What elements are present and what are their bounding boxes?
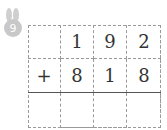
answer-cell[interactable] — [28, 93, 61, 128]
grid-cell: 1 — [61, 25, 94, 59]
grid-cell: 2 — [128, 25, 161, 59]
answer-cell[interactable] — [128, 93, 161, 128]
grid-cell: 8 — [61, 59, 94, 93]
grid-cell: 8 — [128, 59, 161, 93]
rabbit-badge-icon: 9 — [2, 8, 24, 38]
grid-cell — [28, 25, 61, 59]
grid-cell: 1 — [94, 59, 127, 93]
answer-cell[interactable] — [61, 93, 94, 128]
svg-text:9: 9 — [10, 22, 17, 35]
plus-sign: + — [28, 59, 61, 93]
answer-cell[interactable] — [94, 93, 127, 128]
addition-grid: 1 9 2 + 8 1 8 — [28, 25, 161, 128]
grid-cell: 9 — [94, 25, 127, 59]
sum-line — [28, 92, 161, 93]
